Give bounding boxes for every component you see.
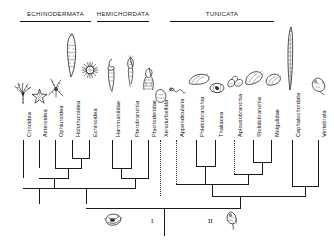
cladogram-figure: ECHINODERMATA HEMICHORDATA TUNICATA	[0, 0, 334, 248]
branch-thaliacea	[215, 140, 216, 166]
tip-label-ophiuroidea: Ophiuroidea	[58, 105, 64, 137]
tip-label-holothuroidea: Holothuroidea	[75, 101, 81, 137]
tip-label-harrimaniidae: Harrimaniidae	[115, 101, 121, 137]
stem-phlebobranchia-thaliacea	[205, 166, 206, 184]
tip-label-asteroidea: Asteroidea	[42, 109, 48, 137]
branch-molgulidae	[271, 140, 272, 162]
tadpole-larva-sketch	[224, 210, 240, 230]
branch-aplousobranchia	[234, 140, 235, 174]
tip-label-crinoidea: Crinoidea	[26, 112, 32, 137]
stem-ophiuroidea-echinozoa	[68, 168, 69, 178]
root-stem	[164, 208, 165, 236]
stem-stolidobranchia-molgulidae	[262, 162, 263, 174]
branch-asteroidea	[39, 140, 40, 168]
group-bar-echinodermata	[20, 21, 91, 22]
brittle-star-sketch	[48, 78, 64, 98]
tip-label-echinoidea: Echinoidea	[92, 108, 98, 137]
stem-asterozoa-echinozoa	[54, 178, 55, 188]
pterobranch-sketch	[124, 55, 138, 87]
group-label-hemichordata: HEMICHORDATA	[95, 10, 151, 17]
branch-crinoidea	[23, 140, 24, 178]
group-label-echinodermata: ECHINODERMATA	[20, 10, 91, 17]
tip-label-cephalochordata: Cephalochordata	[295, 93, 301, 137]
stem-chordata	[240, 196, 241, 208]
tip-label-appendicularia: Appendicularia	[179, 99, 185, 137]
tip-label-vertebrata: Vertebrata	[321, 110, 327, 137]
sea-cucumber-sketch	[64, 33, 80, 79]
sea-urchin-sketch	[81, 61, 99, 79]
tip-label-thaliacea: Thaliacea	[218, 112, 224, 137]
branch-phlebobranchia	[196, 140, 197, 166]
branch-stolidobranchia	[253, 140, 254, 162]
phlebobranch-sketch	[188, 72, 210, 86]
branch-vertebrata	[318, 140, 319, 186]
larvacean-sketch	[168, 82, 186, 100]
tip-label-ptychoderidae: Ptychoderidae	[151, 100, 157, 137]
tip-label-stolidobranchia: Stolidobranchia	[256, 97, 262, 137]
amphioxus-sketch	[284, 26, 298, 92]
tip-label-pterobranchia: Pterobranchia	[134, 101, 140, 137]
numeral-one: I	[151, 217, 153, 225]
branch-appendicularia	[176, 140, 177, 184]
sea-star-sketch	[31, 88, 48, 105]
group-bar-hemichordata	[97, 21, 149, 22]
molgulid-sketch	[264, 72, 282, 86]
numeral-two: II	[208, 217, 213, 225]
tip-label-aplousobranchia: Aplousobranchia	[237, 94, 243, 137]
stem-cephalochordata-vertebrata	[305, 186, 306, 196]
dipleurula-larva-sketch	[103, 212, 123, 228]
branch-holothuroidea	[72, 140, 73, 158]
stem-hemichordata	[135, 178, 136, 188]
branch-ophiuroidea	[55, 140, 56, 168]
aplousobranch-sketch	[226, 74, 244, 88]
branch-xenoturbellida	[160, 140, 161, 196]
stem-ambulacraria	[86, 188, 87, 204]
branch-ptychoderidae	[148, 140, 149, 178]
group-bar-tunicata	[170, 21, 274, 22]
crinoid-sketch	[14, 82, 32, 104]
stem-tunicata	[212, 184, 213, 196]
tip-label-phlebobranchia: Phlebobranchia	[199, 97, 205, 137]
group-label-tunicata: TUNICATA	[170, 10, 274, 17]
stolidobranch-sketch	[244, 70, 264, 86]
acorn-worm-sketch	[105, 58, 119, 92]
tip-label-molgulidae: Molgulidae	[274, 109, 280, 137]
branch-pterobranchia	[131, 140, 132, 168]
salp-sketch	[209, 82, 225, 94]
branch-echinoidea	[89, 140, 90, 158]
branch-cephalochordata	[292, 140, 293, 186]
stem-harrimaniidae-pterobranchia	[121, 168, 122, 178]
branch-harrimaniidae	[112, 140, 113, 168]
stem-echinodermata	[39, 188, 40, 204]
tip-label-xenoturbellida: Xenoturbellida	[163, 100, 169, 137]
vertebrate-embryo-sketch	[310, 76, 328, 96]
stem-echinozoa	[81, 158, 82, 168]
stem-aplousobranchia-stolidobranchia	[248, 174, 249, 184]
node-chordata	[212, 196, 306, 197]
